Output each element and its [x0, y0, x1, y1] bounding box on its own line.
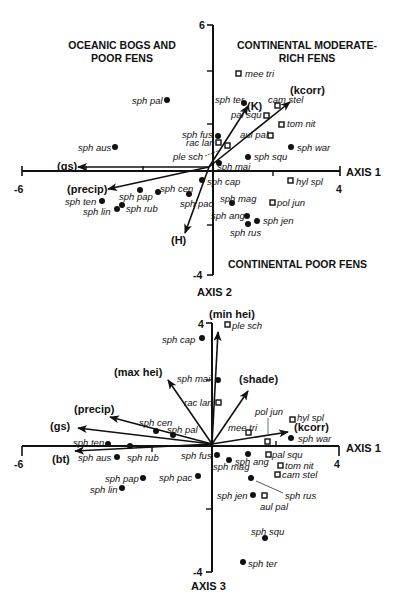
plot-axis1-axis2: 6 -4 -6 4 AXIS 1 AXIS 2 OCEANIC BOGS AND… [14, 19, 381, 298]
x-tick-max-2: 4 [334, 458, 340, 470]
group-label-cont-poor: CONTINENTAL POOR FENS [228, 258, 367, 270]
svg-text:pol jun: pol jun [276, 197, 305, 208]
svg-text:sph mai: sph mai [217, 161, 251, 172]
svg-text:sph fus: sph fus [181, 450, 212, 461]
svg-text:ple sch: ple sch [231, 320, 262, 331]
ordination-figure: 6 -4 -6 4 AXIS 1 AXIS 2 OCEANIC BOGS AND… [0, 0, 399, 602]
svg-text:hyl spl: hyl spl [297, 412, 325, 423]
svg-text:sph cap: sph cap [162, 334, 195, 345]
svg-text:sph pal: sph pal [132, 95, 164, 106]
svg-text:sph mag: sph mag [220, 193, 257, 204]
svg-text:sph pal: sph pal [167, 424, 199, 435]
svg-text:sph war: sph war [297, 142, 331, 153]
y-axis-label: AXIS 2 [197, 286, 232, 298]
svg-text:sph rub: sph rub [126, 203, 158, 214]
y-axis-label-2: AXIS 3 [191, 580, 226, 592]
svg-text:sph rub: sph rub [127, 452, 159, 463]
y-tick-min: -4 [193, 269, 202, 281]
svg-text:sph rus: sph rus [230, 227, 261, 238]
svg-text:sph war: sph war [298, 433, 332, 444]
x-tick-max: 4 [336, 183, 342, 195]
svg-text:(max hei): (max hei) [114, 366, 163, 378]
y-tick-max: 6 [199, 19, 205, 31]
svg-text:aul pal: aul pal [240, 129, 269, 140]
svg-text:sph lin: sph lin [83, 206, 110, 217]
svg-text:sph aus: sph aus [78, 452, 112, 463]
svg-text:tom nit: tom nit [287, 118, 316, 129]
svg-text:sph ter: sph ter [215, 94, 245, 105]
svg-text:sph jen: sph jen [263, 215, 294, 226]
svg-text:(gs): (gs) [50, 420, 71, 432]
svg-text:sph pac: sph pac [180, 198, 214, 209]
svg-text:sph mag: sph mag [213, 461, 250, 472]
svg-text:pal squ: pal squ [271, 449, 303, 460]
svg-text:mee tri: mee tri [245, 68, 275, 79]
x-axis-label: AXIS 1 [346, 166, 381, 178]
svg-text:(precip): (precip) [67, 183, 108, 195]
svg-text:sph cen: sph cen [160, 183, 193, 194]
svg-text:sph ter: sph ter [248, 558, 278, 569]
svg-text:(H): (H) [171, 234, 187, 246]
svg-text:sph pap: sph pap [105, 473, 139, 484]
svg-text:(min hei): (min hei) [209, 308, 255, 320]
svg-text:(shade): (shade) [239, 373, 278, 385]
svg-text:cam stel: cam stel [282, 469, 318, 480]
svg-text:aul pal: aul pal [260, 501, 289, 512]
svg-text:ple sch: ple sch [172, 151, 203, 162]
group-label-oceanic-2: POOR FENS [91, 52, 153, 64]
group-label-cont-rich-2: RICH FENS [279, 52, 336, 64]
svg-text:(precip): (precip) [74, 403, 115, 415]
svg-text:sph jen: sph jen [217, 490, 248, 501]
x-tick-min: -6 [14, 183, 23, 195]
svg-text:sph ten: sph ten [73, 437, 104, 448]
svg-text:sph pac: sph pac [159, 472, 193, 483]
group-label-oceanic: OCEANIC BOGS AND [68, 39, 176, 51]
svg-text:pal squ: pal squ [230, 109, 262, 120]
svg-text:rac lan: rac lan [186, 137, 215, 148]
svg-text:cam stel: cam stel [268, 94, 304, 105]
svg-text:mee tri: mee tri [228, 422, 258, 433]
svg-text:sph ang: sph ang [211, 210, 246, 221]
svg-text:sph rus: sph rus [285, 490, 316, 501]
svg-text:sph mai: sph mai [177, 373, 211, 384]
svg-text:sph cap: sph cap [207, 176, 240, 187]
x-axis-label-2: AXIS 1 [346, 442, 381, 454]
y-tick-max-2: 4 [198, 318, 204, 330]
svg-text:(gs): (gs) [57, 160, 78, 172]
svg-text:sph squ: sph squ [251, 526, 285, 537]
svg-text:(bt): (bt) [52, 453, 70, 465]
svg-text:rac lan: rac lan [184, 397, 213, 408]
y-tick-min-2: -4 [193, 566, 202, 578]
plot-axis1-axis3: 4 -4 -6 4 AXIS 1 AXIS 3 (min hei) (max h… [14, 308, 381, 592]
svg-text:sph lin: sph lin [90, 484, 117, 495]
svg-text:hyl spl: hyl spl [296, 176, 324, 187]
x-tick-min-2: -6 [14, 458, 23, 470]
group-label-cont-rich: CONTINENTAL MODERATE- [237, 39, 377, 51]
svg-text:sph pap: sph pap [119, 191, 153, 202]
vector-shade [212, 391, 248, 444]
svg-text:pol jun: pol jun [254, 406, 283, 417]
svg-text:sph squ: sph squ [254, 151, 288, 162]
svg-text:sph aus: sph aus [78, 142, 112, 153]
